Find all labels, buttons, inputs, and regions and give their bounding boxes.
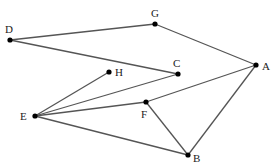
edge-h-e (35, 72, 109, 116)
edge-g-a (155, 24, 256, 65)
edge-d-c (10, 40, 178, 74)
node-f-dot-icon (143, 99, 148, 104)
node-b-dot-icon (185, 152, 190, 157)
node-f-label: F (141, 108, 147, 120)
edge-group (10, 24, 256, 155)
node-a-dot-icon (253, 62, 258, 67)
graph-diagram: ABCDEFGH (0, 0, 273, 167)
node-b-label: B (193, 152, 200, 164)
edge-c-e (35, 74, 178, 116)
edge-f-b (146, 102, 188, 155)
node-c-label: C (173, 57, 180, 69)
node-c-dot-icon (175, 71, 180, 76)
node-e-label: E (20, 110, 27, 122)
edge-d-g (10, 24, 155, 40)
node-group (7, 21, 258, 157)
node-h-dot-icon (106, 69, 111, 74)
node-e-dot-icon (32, 113, 37, 118)
node-g-label: G (151, 7, 159, 19)
node-a-label: A (262, 60, 270, 72)
edge-f-e (35, 102, 146, 116)
edge-a-b (188, 65, 256, 155)
node-h-label: H (115, 66, 123, 78)
node-d-label: D (5, 23, 13, 35)
node-g-dot-icon (152, 21, 157, 26)
edge-e-b (35, 116, 188, 155)
node-d-dot-icon (7, 37, 12, 42)
